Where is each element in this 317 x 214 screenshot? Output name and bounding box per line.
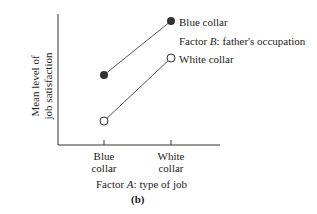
x-category-white-collar: Whitecollar xyxy=(151,150,191,174)
point-open-blue-job xyxy=(100,117,108,125)
x-category-blue-collar: Bluecollar xyxy=(84,150,124,174)
legend-title: Factor B: father's occupation xyxy=(179,35,305,47)
y-axis-label: Mean level ofjob satisfaction xyxy=(29,36,55,136)
x-axis-label: Factor A: type of job xyxy=(96,178,187,190)
point-filled-blue-job xyxy=(100,71,108,79)
legend-white-collar: White collar xyxy=(179,53,234,65)
point-open-white-job xyxy=(167,54,175,62)
panel-label: (b) xyxy=(131,193,144,205)
point-filled-white-job xyxy=(167,17,175,25)
legend-blue-collar: Blue collar xyxy=(179,16,228,28)
